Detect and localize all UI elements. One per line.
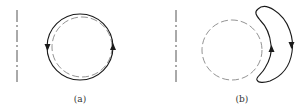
dashed-circle-a	[52, 17, 112, 77]
figure: (a) (b)	[0, 0, 304, 111]
panel-label-b: (b)	[236, 94, 249, 104]
arrow-down-icon	[289, 42, 295, 49]
dashed-circle-b	[202, 20, 262, 80]
panel-b: (b)	[176, 6, 295, 104]
arrow-up-icon	[110, 43, 116, 50]
panel-a: (a)	[17, 10, 116, 104]
arrow-down-icon	[45, 44, 51, 51]
panel-label-a: (a)	[74, 94, 86, 104]
solid-loop-a	[47, 14, 113, 80]
arrow-up-icon	[269, 45, 275, 52]
